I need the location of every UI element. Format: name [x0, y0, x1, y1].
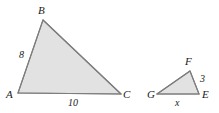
side-length-label-fe: 3: [200, 74, 205, 84]
vertex-label-f: F: [185, 56, 192, 67]
vertex-label-g: G: [147, 89, 155, 100]
vertex-label-c: C: [123, 89, 130, 100]
side-length-label-ab: 8: [19, 50, 24, 60]
triangle-abc-shape: [18, 20, 121, 94]
vertex-label-a: A: [6, 89, 13, 100]
vertex-label-e: E: [202, 89, 209, 100]
side-length-label-ge: x: [175, 98, 179, 108]
similar-triangles-figure: A B C 8 10 F G E 3 x: [0, 0, 219, 113]
vertex-label-b: B: [38, 5, 45, 16]
triangle-gef-shape: [157, 71, 199, 94]
side-length-label-ac: 10: [68, 98, 78, 108]
